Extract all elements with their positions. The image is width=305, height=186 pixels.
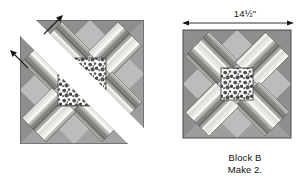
left-exploded-block-diagram (4, 8, 169, 178)
block-caption: Block B Make 2. (190, 152, 300, 175)
caption-line-1: Block B (190, 152, 300, 164)
dimension-label: 14½" (190, 8, 300, 20)
caption-line-2: Make 2. (190, 164, 300, 176)
block-b-body (183, 30, 291, 138)
figure-canvas: 14½" Block B Make 2. (0, 0, 305, 186)
right-finished-block-diagram (180, 18, 300, 146)
dimension-line (182, 21, 294, 26)
center-print-square (221, 68, 253, 100)
